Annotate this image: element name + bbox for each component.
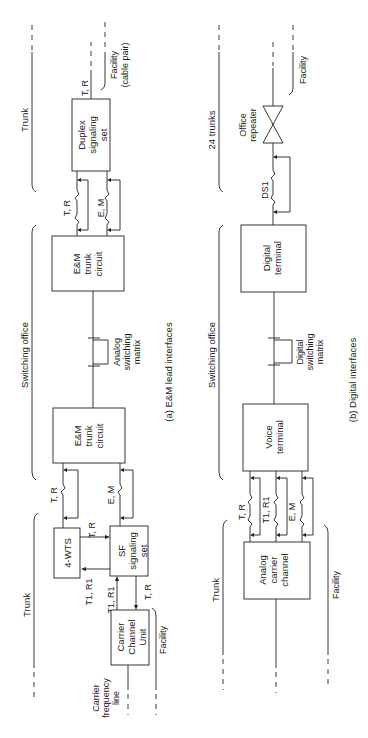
carrier-freq-line-2: frequency bbox=[101, 678, 111, 718]
duplex-line-3: set bbox=[98, 128, 109, 141]
duplex-line-1: Duplex bbox=[76, 120, 87, 150]
voice-terminal-line-2: terminal bbox=[274, 420, 285, 454]
analog-matrix-line-1: Analog bbox=[112, 338, 122, 366]
acc-line-1: Analog bbox=[257, 555, 268, 585]
diagram-a-em-lead-interfaces: Trunk Switching office Trunk Duplex sign… bbox=[19, 22, 174, 718]
tr-leads-b bbox=[248, 471, 260, 542]
analog-matrix-line-3: matrix bbox=[132, 339, 142, 364]
trunk-top-bracket bbox=[32, 25, 36, 192]
digital-terminal-line-1: Digital bbox=[261, 245, 272, 271]
em-top-leads-label: E, M bbox=[96, 199, 106, 218]
duplex-line-2: signaling bbox=[87, 116, 98, 154]
caption-a: (a) E&M lead interfaces bbox=[163, 322, 174, 422]
em-trunk-1-line-3: circuit bbox=[93, 251, 104, 276]
em-trunk-1-line-2: trunk bbox=[82, 253, 93, 274]
sf-line-3: set bbox=[138, 544, 149, 557]
trunk-bottom-label: Trunk bbox=[21, 593, 32, 617]
ds1-label: DS1 bbox=[260, 181, 270, 199]
analog-switching-matrix bbox=[88, 291, 108, 408]
digital-matrix-line-3: matrix bbox=[315, 339, 325, 364]
facility-b-bottom-label: Facility bbox=[331, 571, 341, 600]
tr-lead-pair-bottom bbox=[61, 463, 78, 528]
facility-a-label: Facility bbox=[158, 626, 168, 655]
caption-b: (b) Digital interfaces bbox=[347, 338, 358, 423]
facility-cable-pair-line-2: (cable pair) bbox=[120, 42, 130, 87]
facility-b-top-label: Facility bbox=[298, 56, 308, 85]
diagram-b-digital-interfaces: 24 trunks Switching office Trunk Facilit… bbox=[206, 25, 358, 693]
switching-office-bracket-b bbox=[219, 225, 223, 480]
em-lead-pair-top bbox=[105, 171, 120, 236]
digital-matrix-line-2: switching bbox=[305, 333, 315, 370]
tr-bottom-leads-label: T, R bbox=[49, 487, 59, 504]
four-wts-label: 4-WTS bbox=[62, 538, 73, 568]
switching-office-bracket bbox=[32, 225, 36, 480]
tr-top-leads-label: T, R bbox=[62, 200, 72, 217]
tr-4wts-sf-label: T, R bbox=[87, 522, 97, 539]
em-trunk-1-line-1: E&M bbox=[71, 254, 82, 275]
ds1-link bbox=[271, 143, 290, 225]
trunk-b-bracket bbox=[223, 520, 227, 690]
office-repeater-line-2: repeater bbox=[248, 108, 258, 142]
telecom-interfaces-diagram: Trunk Switching office Trunk Duplex sign… bbox=[0, 0, 368, 738]
analog-matrix-line-2: switching bbox=[122, 333, 132, 370]
trunks-24-label: 24 trunks bbox=[206, 110, 217, 149]
carrier-freq-line-1: Carrier bbox=[91, 684, 101, 712]
voice-terminal-line-1: Voice bbox=[263, 425, 274, 448]
sf-line-1: SF bbox=[116, 545, 127, 557]
em-leads-b-label: E, M bbox=[287, 503, 297, 522]
digital-switching-matrix bbox=[268, 292, 292, 404]
office-repeater-line-1: Office bbox=[238, 113, 248, 136]
em-trunk-2-line-2: trunk bbox=[83, 425, 94, 446]
digital-matrix-line-1: Digital bbox=[295, 339, 305, 364]
ccu-line-2: Channel bbox=[126, 619, 137, 654]
tr-sf-ccu-label: T, R bbox=[143, 584, 153, 601]
em-leads-b bbox=[300, 471, 313, 542]
tr-duplex-out-label: T, R bbox=[80, 80, 90, 97]
ccu-line-1: Carrier bbox=[115, 622, 126, 651]
ccu-line-3: Unit bbox=[137, 628, 148, 645]
acc-line-2: carrier bbox=[268, 557, 279, 584]
acc-line-3: channel bbox=[279, 553, 290, 586]
carrier-freq-line-3: line bbox=[111, 691, 121, 705]
em-bottom-leads-label: E, M bbox=[106, 486, 116, 505]
t1r1-leads-b bbox=[274, 471, 287, 542]
switching-office-label-a: Switching office bbox=[19, 322, 30, 388]
em-lead-pair-bottom bbox=[118, 463, 133, 526]
trunk-b-label: Trunk bbox=[210, 578, 221, 602]
sf-line-2: signaling bbox=[127, 532, 138, 570]
t1r1-ccu-sf-label: T1, R1 bbox=[106, 586, 116, 613]
t1r1-sf-4wts-label: T1, R1 bbox=[84, 578, 94, 605]
trunks-24-bracket bbox=[219, 25, 223, 192]
trunk-top-label: Trunk bbox=[19, 108, 30, 132]
digital-terminal-line-2: terminal bbox=[272, 241, 283, 275]
tr-leads-b-label: T, R bbox=[237, 504, 247, 521]
switching-office-label-b: Switching office bbox=[206, 322, 217, 388]
em-trunk-2-line-3: circuit bbox=[94, 423, 105, 448]
office-repeater-icon bbox=[263, 106, 283, 143]
em-trunk-2-line-1: E&M bbox=[72, 426, 83, 447]
facility-cable-pair-line-1: Facility bbox=[109, 51, 119, 80]
trunk-bottom-bracket bbox=[34, 513, 38, 700]
tr-lead-pair-top bbox=[75, 171, 88, 236]
t1r1-leads-b-label: T1, R1 bbox=[261, 496, 271, 523]
